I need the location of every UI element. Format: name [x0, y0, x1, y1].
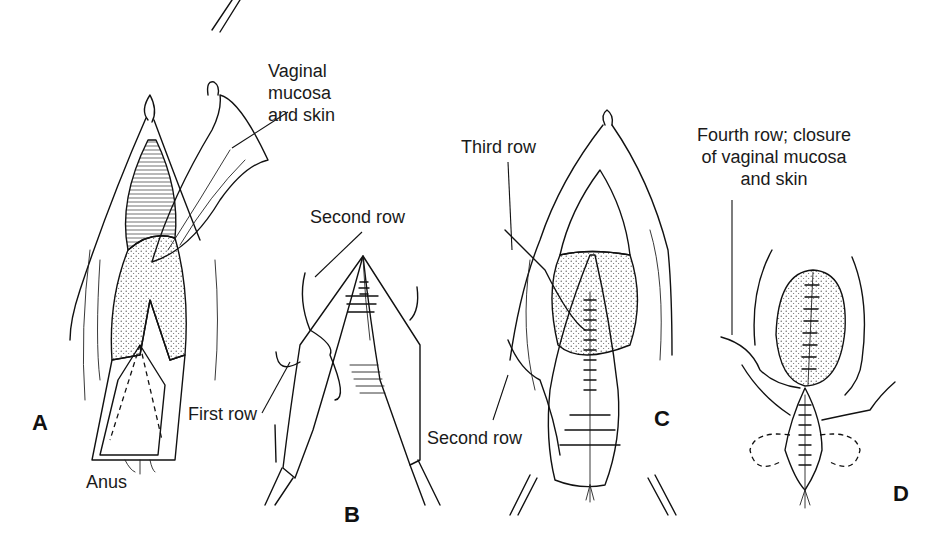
panel-b-drawing — [265, 256, 440, 505]
surgical-repair-figure: Vaginal mucosa and skin Anus A Second ro… — [0, 0, 934, 545]
label-first-row: First row — [188, 404, 257, 424]
leader-line-second-row-c — [493, 375, 508, 420]
label-second-row-b: Second row — [310, 207, 405, 227]
leader-line-second-row-b — [315, 232, 362, 277]
leader-line-first-row — [262, 362, 290, 413]
label-fourth-row-closure: Fourth row; closure of vaginal mucosa an… — [664, 124, 884, 190]
panel-letter-d: D — [893, 481, 909, 507]
panel-d-drawing — [721, 250, 895, 508]
panel-c-drawing — [505, 110, 676, 515]
panel-letter-b: B — [344, 502, 360, 528]
leader-line-third-row — [508, 162, 512, 250]
label-second-row-c: Second row — [427, 428, 522, 448]
label-third-row: Third row — [461, 137, 536, 157]
label-vaginal-mucosa-and-skin: Vaginal mucosa and skin — [268, 60, 335, 126]
panel-a-drawing — [70, 0, 268, 474]
illustration-artwork — [0, 0, 934, 545]
panel-letter-a: A — [32, 410, 48, 436]
panel-letter-c: C — [654, 406, 670, 432]
label-anus: Anus — [86, 472, 127, 492]
